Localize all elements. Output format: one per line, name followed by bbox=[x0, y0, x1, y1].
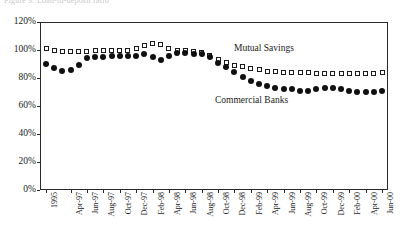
y-axis-tick-mark bbox=[37, 78, 40, 79]
data-point-marker bbox=[289, 86, 295, 92]
x-axis-tick-label: Apr-97 bbox=[75, 192, 84, 215]
x-axis-tick-label: Apr-99 bbox=[271, 192, 280, 215]
data-point-marker bbox=[133, 53, 139, 59]
y-axis-tick-label: 120% bbox=[2, 16, 36, 26]
data-point-marker bbox=[158, 42, 163, 47]
x-axis-tick-label: Aug-97 bbox=[107, 192, 116, 216]
x-axis-tick-label: Oct-97 bbox=[124, 192, 133, 214]
data-point-marker bbox=[380, 70, 385, 75]
data-point-marker bbox=[44, 46, 49, 51]
data-point-marker bbox=[84, 49, 89, 54]
x-axis-tick-mark bbox=[202, 190, 203, 193]
data-point-marker bbox=[273, 69, 278, 74]
data-point-marker bbox=[256, 81, 262, 87]
x-axis-tick-mark bbox=[366, 190, 367, 193]
x-axis-tick-label: Aug-98 bbox=[206, 192, 215, 216]
x-axis-tick-mark bbox=[87, 190, 88, 193]
data-point-marker bbox=[125, 48, 130, 53]
x-axis-tick-label: Dec-99 bbox=[337, 192, 346, 216]
y-axis-tick-mark bbox=[37, 106, 40, 107]
x-axis-tick-mark bbox=[333, 190, 334, 193]
data-point-marker bbox=[297, 88, 303, 94]
x-axis-tick-label: Feb-99 bbox=[255, 192, 264, 215]
x-axis-tick-mark bbox=[300, 190, 301, 193]
x-axis-tick-label: Feb-98 bbox=[157, 192, 166, 215]
x-axis-tick-label: Oct-98 bbox=[222, 192, 231, 214]
x-axis-tick-label: 1995 bbox=[50, 192, 59, 208]
x-axis-tick-mark bbox=[382, 190, 383, 193]
x-axis-tick-label: Jun-99 bbox=[288, 192, 297, 214]
x-axis-tick-mark bbox=[71, 190, 72, 193]
data-point-marker bbox=[43, 61, 49, 67]
x-axis-tick-mark bbox=[218, 190, 219, 193]
x-axis-tick-mark bbox=[153, 190, 154, 193]
data-point-marker bbox=[158, 57, 164, 63]
data-point-marker bbox=[371, 89, 377, 95]
data-point-marker bbox=[134, 46, 139, 51]
data-point-marker bbox=[330, 85, 336, 91]
y-axis-tick-mark bbox=[37, 162, 40, 163]
y-axis-tick-label: 0% bbox=[2, 184, 36, 194]
x-axis-tick-mark bbox=[169, 190, 170, 193]
data-point-marker bbox=[281, 86, 287, 92]
x-axis-tick-mark bbox=[46, 190, 47, 193]
figure-caption: Figure 3. Loan-to-deposit ratio bbox=[4, 0, 304, 5]
data-point-marker bbox=[240, 64, 245, 69]
x-axis-tick-mark bbox=[251, 190, 252, 193]
data-point-marker bbox=[379, 88, 385, 94]
data-point-marker bbox=[199, 51, 205, 57]
y-axis-tick-label: 40% bbox=[2, 128, 36, 138]
data-point-marker bbox=[322, 71, 327, 76]
data-point-marker bbox=[166, 53, 172, 59]
x-axis-tick-label: Apr-98 bbox=[173, 192, 182, 215]
y-axis-tick-label: 80% bbox=[2, 72, 36, 82]
data-point-marker bbox=[248, 66, 253, 71]
y-axis-tick-mark bbox=[37, 22, 40, 23]
data-point-marker bbox=[117, 48, 122, 53]
chart-container: Figure 3. Loan-to-deposit ratio 0%20%40%… bbox=[0, 0, 404, 226]
data-point-marker bbox=[232, 63, 237, 68]
x-axis-tick-label: Jun-00 bbox=[386, 192, 395, 214]
x-axis-tick-label: Aug-99 bbox=[304, 192, 313, 216]
data-point-marker bbox=[142, 43, 147, 48]
series-annotation-mutual-savings: Mutual Savings bbox=[234, 43, 294, 53]
data-point-marker bbox=[101, 48, 106, 53]
x-axis-tick-label: Feb-00 bbox=[353, 192, 362, 215]
data-point-marker bbox=[257, 67, 262, 72]
data-point-marker bbox=[363, 89, 369, 95]
data-point-marker bbox=[346, 88, 352, 94]
x-axis-tick-mark bbox=[103, 190, 104, 193]
data-point-marker bbox=[117, 53, 123, 59]
data-point-marker bbox=[306, 70, 311, 75]
data-point-marker bbox=[240, 74, 246, 80]
y-axis-tick-mark bbox=[37, 50, 40, 51]
data-point-marker bbox=[322, 85, 328, 91]
data-point-marker bbox=[371, 71, 376, 76]
data-point-marker bbox=[215, 60, 221, 66]
data-point-marker bbox=[265, 69, 270, 74]
data-point-marker bbox=[355, 71, 360, 76]
y-axis-tick-label: 20% bbox=[2, 156, 36, 166]
data-point-marker bbox=[330, 71, 335, 76]
data-point-marker bbox=[305, 88, 311, 94]
y-axis-tick-mark bbox=[37, 134, 40, 135]
data-point-marker bbox=[289, 70, 294, 75]
data-point-marker bbox=[52, 48, 57, 53]
data-point-marker bbox=[68, 49, 73, 54]
data-point-marker bbox=[150, 41, 155, 46]
x-axis-tick-label: Dec-97 bbox=[140, 192, 149, 216]
data-point-marker bbox=[60, 49, 65, 54]
x-axis-tick-label: Jun-98 bbox=[189, 192, 198, 214]
data-point-marker bbox=[125, 53, 131, 59]
data-point-marker bbox=[298, 70, 303, 75]
y-axis-tick-label: 100% bbox=[2, 44, 36, 54]
data-point-marker bbox=[93, 48, 98, 53]
data-point-marker bbox=[248, 78, 254, 84]
data-point-marker bbox=[347, 71, 352, 76]
data-point-marker bbox=[281, 70, 286, 75]
x-axis-tick-label: Jun-97 bbox=[91, 192, 100, 214]
x-axis-tick-mark bbox=[267, 190, 268, 193]
data-point-marker bbox=[191, 51, 197, 57]
data-point-marker bbox=[109, 48, 114, 53]
data-point-marker bbox=[363, 71, 368, 76]
